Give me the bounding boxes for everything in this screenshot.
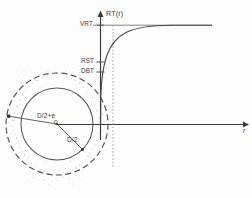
radius-endpoint-dot xyxy=(81,148,84,151)
borehole-centre-label: 0 xyxy=(54,119,58,126)
y-axis-label: RT(r) xyxy=(106,9,123,18)
x-axis-label: r xyxy=(243,126,246,135)
skin-radius-endpoint-marker xyxy=(7,115,10,118)
inner-radius-label: D/2 xyxy=(67,136,78,143)
y-axis-arrowhead xyxy=(98,11,104,18)
rt-curve xyxy=(101,25,212,95)
figure-container: RT(r) r VRT RST DBT 0 D/2 D/2+e xyxy=(0,0,252,198)
skin-zone-stipple xyxy=(7,68,107,185)
diagram-canvas xyxy=(0,0,252,198)
outer-radius-label: D/2+e xyxy=(37,112,55,119)
vrt-level-label: VRT xyxy=(80,20,93,27)
rst-level-label: RST xyxy=(81,57,94,64)
dbt-level-label: DBT xyxy=(81,67,94,74)
